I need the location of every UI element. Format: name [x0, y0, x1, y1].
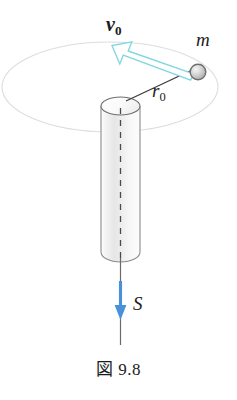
caption-number: 9.8: [118, 360, 141, 379]
radius-subscript: 0: [159, 90, 165, 104]
radius-label: r0: [152, 81, 166, 103]
velocity-subscript: 0: [115, 23, 122, 38]
tension-symbol: S: [133, 293, 143, 314]
diagram-canvas: [0, 0, 237, 400]
caption-kanji: 図: [96, 360, 114, 379]
velocity-symbol: v: [106, 13, 115, 35]
figure-caption: 図 9.8: [0, 355, 237, 380]
point-mass-sphere-icon: [190, 64, 206, 80]
physics-figure: v0 m r0 S 図 9.8: [0, 0, 237, 400]
tension-label: S: [133, 294, 143, 313]
mass-symbol: m: [196, 29, 210, 50]
velocity-arrow-up-left-icon: [112, 42, 194, 80]
velocity-label: v0: [106, 14, 121, 37]
mass-label: m: [196, 30, 210, 49]
tension-arrow-down-icon: [115, 281, 127, 320]
